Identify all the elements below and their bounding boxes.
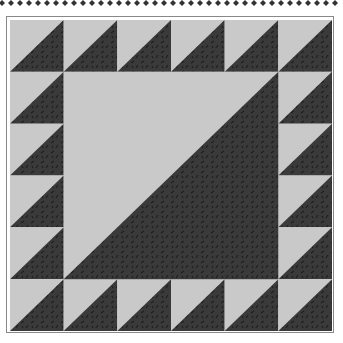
zigzag-diamond [224, 0, 230, 6]
zigzag-diamond [296, 0, 302, 6]
zigzag-diamond [269, 0, 275, 6]
zigzag-diamond [62, 0, 68, 6]
sawtooth-half-square-triangle [278, 176, 332, 228]
sawtooth-half-square-triangle [225, 279, 279, 331]
sawtooth-half-square-triangle [278, 20, 332, 72]
zigzag-diamond [8, 0, 14, 6]
zigzag-diamond [206, 0, 212, 6]
zigzag-diamond [98, 0, 104, 6]
zigzag-diamond [188, 0, 194, 6]
zigzag-diamond [134, 0, 140, 6]
sawtooth-half-square-triangle [171, 20, 225, 72]
sawtooth-half-square-triangle [117, 20, 171, 72]
zigzag-diamond [242, 0, 248, 6]
zigzag-diamond [170, 0, 176, 6]
sawtooth-half-square-triangle [10, 227, 64, 279]
zigzag-diamond [143, 0, 149, 6]
center-large-triangle [64, 72, 279, 279]
sawtooth-half-square-triangle [171, 279, 225, 331]
zigzag-diamond [35, 0, 41, 6]
zigzag-diamond [278, 0, 284, 6]
zigzag-diamond [197, 0, 203, 6]
zigzag-diamond [89, 0, 95, 6]
sawtooth-half-square-triangle [10, 176, 64, 228]
zigzag-diamond [53, 0, 59, 6]
zigzag-diamond [332, 0, 338, 6]
zigzag-diamond [26, 0, 32, 6]
sawtooth-half-square-triangle [10, 124, 64, 176]
zigzag-diamond [179, 0, 185, 6]
sawtooth-half-square-triangle [10, 20, 64, 72]
sawtooth-half-square-triangle [10, 72, 64, 124]
zigzag-diamond [44, 0, 50, 6]
zigzag-diamond [71, 0, 77, 6]
zigzag-border [0, 0, 343, 6]
sawtooth-half-square-triangle [278, 227, 332, 279]
zigzag-diamond [314, 0, 320, 6]
sawtooth-half-square-triangle [278, 72, 332, 124]
sawtooth-half-square-triangle [64, 20, 118, 72]
sawtooth-half-square-triangle [10, 279, 64, 331]
zigzag-diamond [107, 0, 113, 6]
zigzag-diamond [215, 0, 221, 6]
zigzag-diamond [323, 0, 329, 6]
sawtooth-half-square-triangle [64, 279, 118, 331]
zigzag-diamond [80, 0, 86, 6]
sawtooth-half-square-triangle [278, 124, 332, 176]
zigzag-diamond [305, 0, 311, 6]
zigzag-diamond [251, 0, 257, 6]
zigzag-diamond [161, 0, 167, 6]
sawtooth-half-square-triangle [225, 20, 279, 72]
zigzag-diamond [287, 0, 293, 6]
zigzag-diamond [152, 0, 158, 6]
zigzag-diamond [233, 0, 239, 6]
zigzag-diamond [17, 0, 23, 6]
zigzag-diamond [260, 0, 266, 6]
sawtooth-half-square-triangle [117, 279, 171, 331]
zigzag-diamond [125, 0, 131, 6]
quilt-block [10, 20, 332, 331]
zigzag-diamond [0, 0, 5, 6]
sawtooth-half-square-triangle [278, 279, 332, 331]
zigzag-diamond [116, 0, 122, 6]
